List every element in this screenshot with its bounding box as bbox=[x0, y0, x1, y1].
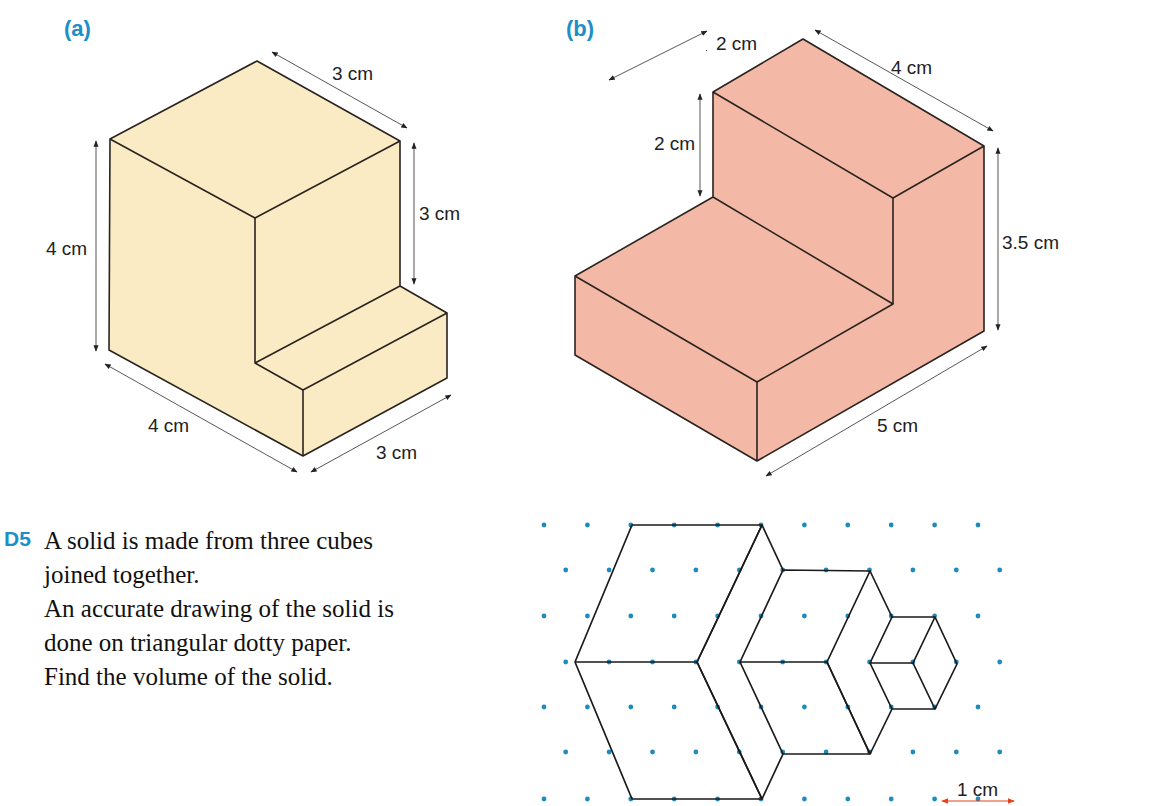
question-line: Find the volume of the solid. bbox=[44, 660, 394, 694]
three-cube-solid bbox=[575, 525, 957, 799]
dim-a-top: 3 cm bbox=[332, 63, 373, 84]
solid-a-body bbox=[109, 61, 447, 456]
solid-b bbox=[575, 39, 984, 461]
dim-b-top-left: 2 cm bbox=[716, 33, 757, 54]
dim-a-bottom-left: 4 cm bbox=[148, 415, 189, 436]
question-line: done on triangular dotty paper. bbox=[44, 626, 394, 660]
solid-a bbox=[109, 61, 447, 456]
question-text: A solid is made from three cubes joined … bbox=[44, 524, 394, 694]
dim-b-left: 2 cm bbox=[654, 133, 695, 154]
solid-b-body bbox=[575, 39, 984, 461]
dim-a-left: 4 cm bbox=[46, 238, 87, 259]
question-line: joined together. bbox=[44, 558, 394, 592]
dim-b-top-right: 4 cm bbox=[891, 57, 932, 78]
scale-label: 1 cm bbox=[957, 779, 998, 800]
question-number: D5 bbox=[4, 527, 31, 551]
dim-b-bottom: 5 cm bbox=[877, 415, 918, 436]
dim-b-right: 3.5 cm bbox=[1002, 232, 1059, 253]
question-line: An accurate drawing of the solid is bbox=[44, 592, 394, 626]
question-line: A solid is made from three cubes bbox=[44, 524, 394, 558]
dim-a-right: 3 cm bbox=[419, 203, 460, 224]
dim-a-bottom-right: 3 cm bbox=[376, 442, 417, 463]
